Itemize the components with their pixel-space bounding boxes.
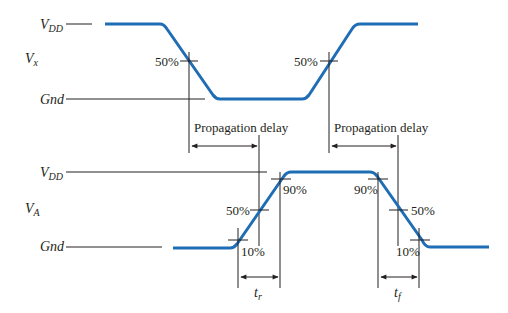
vx-signal-name: Vx: [25, 51, 39, 68]
vx-gnd-label: Gnd: [40, 92, 65, 107]
vx-falling-50-label: 50%: [155, 54, 179, 69]
va-rise-10-label: 10%: [241, 244, 265, 259]
right-delay-label: Propagation delay: [334, 120, 429, 135]
vx-waveform: [105, 24, 418, 99]
timing-diagram: VDD Vx Gnd 50% 50% Propagation delay Pro…: [0, 0, 508, 313]
input-signal-vx: VDD Vx Gnd 50% 50%: [25, 17, 418, 107]
left-delay-label: Propagation delay: [194, 120, 289, 135]
va-gnd-label: Gnd: [40, 239, 65, 254]
va-vdd-label: VDD: [40, 165, 64, 182]
rise-time-label: tr: [254, 285, 262, 302]
va-fall-10-label: 10%: [396, 244, 420, 259]
fall-time-label: tf: [394, 285, 402, 302]
va-rise-50-label: 50%: [226, 203, 250, 218]
vx-rising-50-label: 50%: [294, 54, 318, 69]
va-signal-name: VA: [25, 201, 41, 218]
propagation-delay-markers: Propagation delay Propagation delay: [189, 52, 429, 246]
va-rise-90-label: 90%: [283, 182, 307, 197]
va-waveform: [173, 172, 489, 248]
output-signal-va: VDD VA Gnd 10% 50% 90% 90% 50% 10%: [25, 165, 489, 302]
va-fall-90-label: 90%: [354, 182, 378, 197]
va-fall-50-label: 50%: [411, 203, 435, 218]
vx-vdd-label: VDD: [40, 17, 64, 34]
